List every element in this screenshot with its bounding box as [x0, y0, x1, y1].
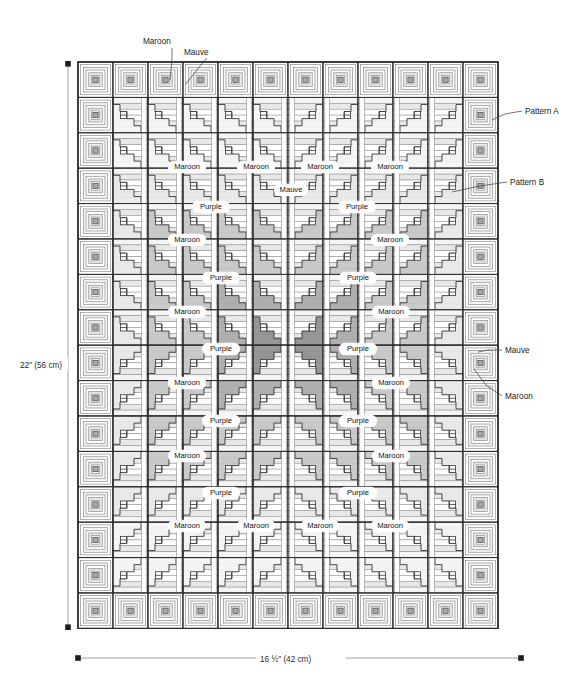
- fabric-label-text: Maroon: [377, 162, 403, 171]
- fabric-label: Purple: [338, 201, 375, 213]
- callout-label: Maroon: [505, 392, 533, 401]
- fabric-label: Maroon: [168, 234, 205, 246]
- fabric-label-text: Purple: [210, 416, 232, 425]
- fabric-label: Maroon: [237, 161, 274, 173]
- fabric-label-text: Maroon: [378, 307, 404, 316]
- fabric-label: Purple: [202, 272, 239, 284]
- width-dimension: 16 ½" (42 cm): [75, 651, 524, 665]
- fabric-label-text: Purple: [347, 488, 369, 497]
- callout-pattern-a: Pattern A: [492, 107, 559, 120]
- fabric-label-text: Maroon: [174, 235, 200, 244]
- fabric-label: Maroon: [372, 306, 409, 318]
- fabric-label-text: Maroon: [243, 521, 269, 530]
- fabric-label: Mauve: [275, 184, 308, 196]
- fabric-label: Purple: [339, 272, 376, 284]
- fabric-label-text: Maroon: [174, 451, 200, 460]
- fabric-label: Maroon: [371, 520, 408, 532]
- fabric-label-text: Maroon: [174, 378, 200, 387]
- fabric-label-text: Purple: [200, 202, 222, 211]
- fabric-label: Purple: [339, 343, 376, 355]
- fabric-label: Maroon: [168, 520, 205, 532]
- fabric-label-group: MaroonMaroonMaroonMaroonMauvePurplePurpl…: [168, 161, 409, 532]
- fabric-label-text: Maroon: [378, 451, 404, 460]
- fabric-label: Purple: [339, 415, 376, 427]
- fabric-label: Maroon: [168, 450, 205, 462]
- fabric-label-text: Purple: [210, 344, 232, 353]
- leader-line: [170, 48, 172, 80]
- callout-maroon-top: Maroon: [143, 37, 172, 80]
- fabric-label-text: Maroon: [377, 235, 403, 244]
- fabric-label-text: Maroon: [377, 521, 403, 530]
- callout-label: Mauve: [184, 48, 209, 57]
- leader-line: [186, 58, 207, 84]
- fabric-label: Maroon: [372, 377, 409, 389]
- fabric-label-text: Maroon: [174, 521, 200, 530]
- callout-maroon-right: Maroon: [474, 369, 533, 401]
- fabric-label-text: Maroon: [243, 162, 269, 171]
- fabric-label: Maroon: [168, 306, 205, 318]
- fabric-label: Maroon: [372, 450, 409, 462]
- fabric-label-text: Purple: [210, 273, 232, 282]
- fabric-label: Purple: [202, 487, 239, 499]
- quilt-diagram-canvas: 22" (56 cm) 16 ½" (42 cm) MaroonMauvePat…: [0, 0, 585, 693]
- fabric-label-text: Maroon: [174, 307, 200, 316]
- leader-line: [452, 182, 507, 192]
- fabric-label-text: Maroon: [174, 162, 200, 171]
- fabric-label: Maroon: [371, 161, 408, 173]
- fabric-label: Maroon: [301, 161, 338, 173]
- fabric-label-text: Purple: [346, 202, 368, 211]
- fabric-label-text: Purple: [347, 273, 369, 282]
- leader-line: [492, 111, 522, 120]
- width-dimension-label: 16 ½" (42 cm): [260, 655, 311, 664]
- fabric-label: Maroon: [168, 377, 205, 389]
- fabric-label-text: Maroon: [307, 521, 333, 530]
- callout-label: Pattern B: [510, 178, 545, 187]
- fabric-label-text: Maroon: [378, 378, 404, 387]
- fabric-label: Purple: [192, 201, 229, 213]
- fabric-label-text: Maroon: [307, 162, 333, 171]
- callout-label: Maroon: [143, 37, 171, 46]
- fabric-label: Purple: [339, 487, 376, 499]
- fabric-label-text: Mauve: [280, 185, 303, 194]
- fabric-label: Maroon: [301, 520, 338, 532]
- callout-label: Mauve: [505, 346, 530, 355]
- fabric-label-text: Purple: [347, 416, 369, 425]
- fabric-label-text: Purple: [347, 344, 369, 353]
- leader-line: [474, 369, 502, 396]
- fabric-label: Purple: [202, 415, 239, 427]
- callout-mauve-top: Mauve: [184, 48, 209, 84]
- fabric-label: Maroon: [371, 234, 408, 246]
- callout-label: Pattern A: [525, 107, 559, 116]
- leader-line: [478, 350, 502, 352]
- callout-mauve-right: Mauve: [478, 346, 530, 355]
- height-dimension: 22" (56 cm): [16, 61, 71, 630]
- fabric-label: Purple: [202, 343, 239, 355]
- annotation-layer: 22" (56 cm) 16 ½" (42 cm) MaroonMauvePat…: [0, 0, 585, 693]
- fabric-label: Maroon: [237, 520, 274, 532]
- height-dimension-label: 22" (56 cm): [20, 361, 62, 370]
- fabric-label: Maroon: [168, 161, 205, 173]
- callout-pattern-b: Pattern B: [452, 178, 545, 192]
- fabric-label-text: Purple: [210, 488, 232, 497]
